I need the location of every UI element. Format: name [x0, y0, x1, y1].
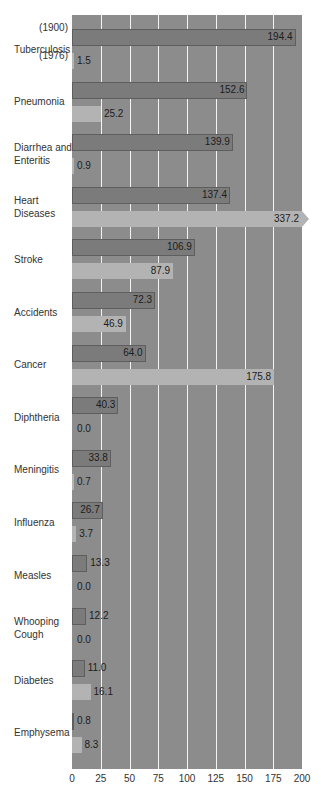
category-label: Influenza: [14, 516, 74, 529]
gridline: [101, 15, 102, 769]
bar-value-label: 64.0: [123, 347, 142, 359]
bar-value-label: 8.3: [85, 739, 99, 751]
category-label: Accidents: [14, 306, 74, 319]
bar-1976: [72, 211, 302, 227]
bar-value-label: 0.0: [77, 423, 91, 435]
bar-value-label: 3.7: [79, 528, 93, 540]
category-label: Stroke: [14, 253, 74, 266]
bar-value-label: 194.4: [268, 31, 293, 43]
category-label: Measles: [14, 569, 74, 582]
bar-value-label: 337.2: [274, 213, 299, 225]
bar-1976: [72, 684, 91, 700]
x-tick-label: 150: [236, 773, 253, 784]
category-label: Cancer: [14, 358, 74, 371]
gridline: [245, 15, 246, 769]
bar-1976: [72, 106, 101, 122]
gridline: [216, 15, 217, 769]
category-label: Diarrhea andEnteritis: [14, 141, 74, 167]
category-label: Diphtheria: [14, 411, 74, 424]
bar-value-label: 0.9: [77, 160, 91, 172]
bar-value-label: 33.8: [88, 452, 107, 464]
bar-value-label: 1.5: [77, 55, 91, 67]
plot-area: 194.41.5152.625.2139.90.9137.4337.2106.9…: [72, 15, 302, 769]
category-label: Meningitis: [14, 463, 74, 476]
x-tick-label: 200: [294, 773, 311, 784]
bar-1900: [72, 29, 296, 46]
x-tick-label: 0: [69, 773, 75, 784]
bar-value-label: 40.3: [96, 399, 115, 411]
bar-value-label: 0.0: [77, 634, 91, 646]
bar-value-label: 16.1: [94, 686, 113, 698]
gridline: [158, 15, 159, 769]
bar-value-label: 152.6: [219, 84, 244, 96]
x-tick-label: 125: [207, 773, 224, 784]
bar-value-label: 0.0: [77, 581, 91, 593]
bar-value-label: 106.9: [167, 241, 192, 253]
category-label: Emphysema: [14, 726, 74, 739]
bar-value-label: 137.4: [202, 189, 227, 201]
x-tick-label: 100: [179, 773, 196, 784]
gridline: [273, 15, 274, 769]
bar-1900: [72, 608, 86, 625]
category-label: Tuberculosis: [14, 43, 74, 56]
category-label: Pneumonia: [14, 95, 74, 108]
x-tick-label: 25: [95, 773, 106, 784]
bar-value-label: 12.2: [89, 610, 108, 622]
bar-value-label: 11.0: [88, 662, 107, 674]
legend-1900-label: (1900): [8, 22, 68, 33]
x-tick-label: 75: [153, 773, 164, 784]
x-tick-label: 50: [124, 773, 135, 784]
bar-1900: [72, 555, 87, 572]
gridline: [187, 15, 188, 769]
bar-value-label: 87.9: [151, 265, 170, 277]
bar-value-label: 26.7: [80, 504, 99, 516]
gridline: [130, 15, 131, 769]
bar-value-label: 0.7: [77, 476, 91, 488]
bar-value-label: 46.9: [103, 318, 122, 330]
bar-value-label: 72.3: [133, 294, 152, 306]
bar-value-label: 175.8: [246, 371, 271, 383]
overflow-arrow-icon: [302, 211, 309, 227]
bar-value-label: 25.2: [104, 108, 123, 120]
bar-value-label: 139.9: [205, 136, 230, 148]
bar-value-label: 13.3: [90, 557, 109, 569]
category-label: WhoopingCough: [14, 615, 74, 641]
category-label: HeartDiseases: [14, 194, 74, 220]
bar-value-label: 0.8: [77, 715, 91, 727]
category-label: Diabetes: [14, 674, 74, 687]
bar-1976: [72, 369, 274, 385]
x-tick-label: 175: [265, 773, 282, 784]
